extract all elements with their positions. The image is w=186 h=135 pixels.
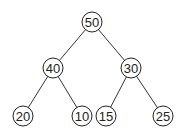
node-label: 50	[85, 15, 99, 30]
tree-node-right-right: 25	[153, 106, 173, 126]
node-label: 25	[156, 109, 170, 124]
tree-node-right: 30	[121, 58, 141, 78]
tree-node-left: 40	[43, 58, 63, 78]
tree-node-root: 50	[82, 12, 102, 32]
node-label: 10	[75, 109, 89, 124]
tree-node-right-left: 15	[96, 106, 116, 126]
tree-diagram: 50 40 30 20 10 15 25	[0, 0, 186, 135]
tree-node-left-left: 20	[13, 106, 33, 126]
node-label: 15	[99, 109, 113, 124]
node-label: 30	[124, 61, 138, 76]
node-label: 40	[46, 61, 60, 76]
node-label: 20	[16, 109, 30, 124]
tree-node-left-right: 10	[72, 106, 92, 126]
